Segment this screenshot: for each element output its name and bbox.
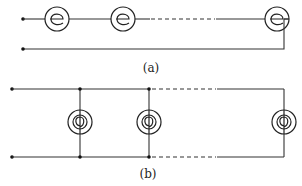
circuit-diagram: (a) (b) <box>0 0 302 186</box>
panel-label-b: (b) <box>139 167 156 181</box>
junction-dot <box>147 155 151 159</box>
lamp-icon <box>68 110 92 134</box>
lamp-icon <box>272 110 296 134</box>
lamp-icon <box>137 110 161 134</box>
lamp-icon <box>111 7 135 31</box>
panel-label-a: (a) <box>143 61 160 75</box>
parallel-circuit-panel-b: (b) <box>10 87 296 181</box>
terminal-dot-bottom <box>21 47 25 51</box>
junction-dot <box>78 87 82 91</box>
lamp-icon <box>45 7 69 31</box>
series-circuit-panel-a: (a) <box>21 7 289 75</box>
junction-dot <box>147 87 151 91</box>
junction-dot <box>78 155 82 159</box>
